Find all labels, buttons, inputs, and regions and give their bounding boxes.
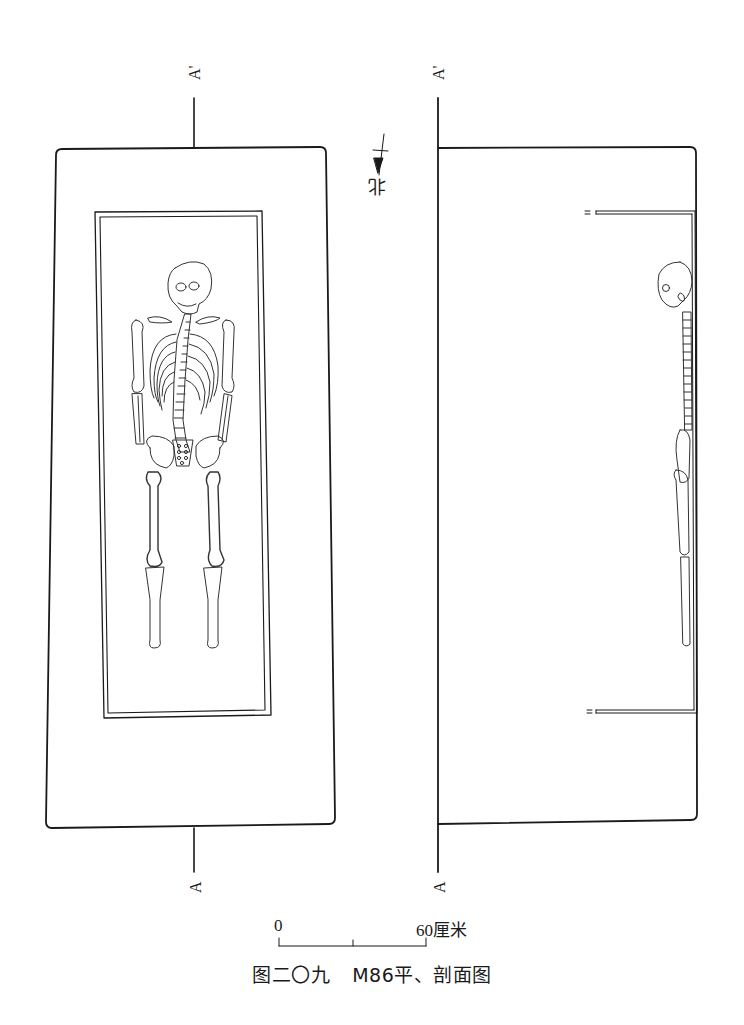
femur-left	[146, 472, 162, 567]
section-view: A' A	[430, 65, 697, 893]
pelvis-profile	[676, 430, 690, 483]
north-arrow-head	[374, 158, 383, 173]
north-label: 北	[368, 176, 386, 197]
spine-profile	[683, 312, 692, 430]
clavicle-right	[196, 317, 220, 324]
burial-figure: A' A	[0, 0, 744, 1025]
coffin-lid-bottom-break	[587, 710, 592, 713]
pelvis	[146, 436, 174, 468]
coffin-lid-top-break	[585, 211, 590, 214]
eye-socket-right	[189, 282, 199, 290]
clavicle-left	[148, 317, 172, 323]
skeleton-plan	[132, 262, 235, 648]
section-pit-outline	[438, 147, 697, 824]
ribs-right	[186, 334, 218, 414]
ribs-left	[150, 334, 176, 410]
spine	[173, 314, 191, 452]
skull-profile	[658, 262, 692, 307]
humerus-left	[132, 320, 145, 392]
caption-title: M86平、剖面图	[352, 964, 492, 986]
figure-caption: 图二〇九M86平、剖面图	[0, 960, 744, 987]
plan-view: A' A	[46, 65, 335, 893]
caption-number: 图二〇九	[252, 964, 330, 986]
section-label-bottom: A	[187, 881, 204, 893]
scale-start-label: 0	[274, 916, 283, 936]
scale-bar	[279, 938, 426, 946]
section-label-top: A'	[186, 65, 203, 80]
jaw	[178, 303, 196, 306]
coffin-lid-top	[596, 211, 695, 214]
section-view-label-top: A'	[430, 65, 447, 80]
tibia-right	[204, 567, 222, 648]
eye-socket	[663, 285, 670, 292]
humerus-right	[222, 320, 234, 392]
section-view-label-bottom: A	[431, 881, 448, 893]
skeleton-section	[658, 262, 692, 646]
tibia-profile	[681, 557, 690, 646]
north-arrow-tick	[373, 150, 388, 151]
scale-end-label: 60厘米	[416, 916, 467, 941]
coffin-lid-bottom	[596, 710, 697, 713]
north-arrow: 北	[368, 134, 388, 197]
femur-right	[206, 472, 224, 566]
eye-socket-left	[176, 283, 186, 291]
grave-pit-outline	[46, 147, 335, 828]
tibia-left	[146, 567, 164, 648]
